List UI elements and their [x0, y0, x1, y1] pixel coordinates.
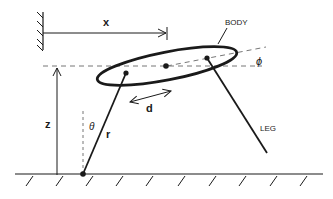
z-label: z: [45, 118, 51, 130]
phi-label: ϕ: [256, 55, 262, 67]
theta-label: θ: [89, 121, 95, 132]
body-leader-line: [218, 28, 227, 44]
ground: [15, 174, 323, 186]
leg-body-diagram: x BODY ϕ z θ r d LEG: [0, 0, 333, 199]
wall-reference: [37, 12, 43, 51]
swing-leg: [207, 58, 267, 153]
r-label: r: [106, 128, 111, 140]
body-label: BODY: [225, 18, 248, 27]
center-of-mass-dot: [163, 63, 169, 69]
leg-label: LEG: [260, 124, 276, 133]
d-dimension-arrow: [130, 91, 171, 102]
x-dimension-arrow: [43, 27, 167, 40]
x-label: x: [103, 16, 110, 28]
d-label: d: [146, 102, 153, 114]
